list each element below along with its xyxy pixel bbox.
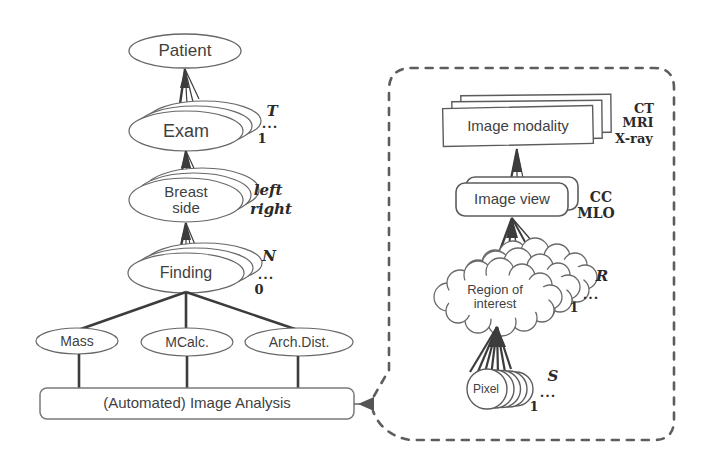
finding-max-label: N: [262, 249, 276, 265]
breast-right-label: right: [250, 202, 292, 218]
finding-dots-label: ...: [258, 268, 275, 282]
mcalc-label: MCalc.: [165, 335, 209, 350]
view-label: Image view: [474, 191, 550, 207]
roi-max-label: R: [596, 269, 608, 285]
children-to-analysis-lines: [79, 354, 298, 388]
analysis-label: (Automated) Image Analysis: [103, 395, 291, 411]
modality-xray-label: X-ray: [615, 132, 653, 146]
modality-ct-label: CT: [634, 102, 654, 116]
view-to-modality-arrow: [511, 148, 523, 180]
finding-to-children-lines: [78, 292, 298, 330]
archdist-label: Arch.Dist.: [269, 335, 330, 350]
roi-min-label: 1: [569, 301, 578, 315]
figure-canvas: Patient Exam T ... 1 Breast side left ri…: [0, 0, 709, 460]
exam-label: Exam: [163, 122, 209, 141]
mass-label: Mass: [60, 334, 93, 349]
breast-side-label: Breast side: [155, 184, 217, 216]
pixel-min-label: 1: [529, 400, 538, 414]
exam-min-label: 1: [257, 132, 266, 146]
exam-dots-label: ...: [262, 117, 279, 131]
pixel-label: Pixel: [473, 383, 499, 396]
finding-label: Finding: [160, 265, 212, 282]
pixel-dots-label: ...: [540, 386, 557, 400]
modality-label: Image modality: [467, 118, 569, 134]
diagram-shapes: [0, 0, 709, 460]
callout-arrow: [354, 397, 374, 411]
patient-label: Patient: [159, 42, 212, 60]
roi-label: Region of interest: [455, 283, 535, 310]
roi-dots-label: ...: [583, 288, 600, 302]
exam-to-patient-arrow: [180, 68, 199, 104]
view-cc-label: CC: [590, 190, 612, 205]
pixel-max-label: S: [548, 369, 559, 385]
breast-left-label: left: [254, 183, 283, 199]
finding-min-label: 0: [254, 283, 263, 297]
modality-mri-label: MRI: [622, 116, 653, 130]
view-mlo-label: MLO: [577, 206, 615, 221]
